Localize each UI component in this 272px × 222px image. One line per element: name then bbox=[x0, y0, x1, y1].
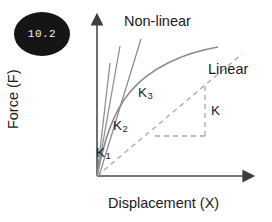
k2-label-subscript: 2 bbox=[122, 123, 128, 134]
k2-label-base: K bbox=[113, 118, 122, 133]
k1-label: K1 bbox=[96, 146, 111, 161]
nonlinear-curve bbox=[97, 47, 218, 176]
slope-triangle-label: K bbox=[211, 104, 220, 118]
x-axis-label: Displacement (X) bbox=[108, 196, 219, 211]
k3-label-base: K bbox=[138, 85, 147, 100]
figure-number-text: 10.2 bbox=[28, 29, 56, 40]
k1-label-subscript: 1 bbox=[105, 150, 111, 161]
figure-canvas: 10.2 Non-linear Linear Force (F) Displac… bbox=[0, 0, 272, 222]
k3-label-subscript: 3 bbox=[147, 90, 153, 101]
linear-label: Linear bbox=[208, 62, 248, 77]
y-axis-label: Force (F) bbox=[6, 69, 21, 129]
nonlinear-label: Non-linear bbox=[124, 14, 191, 29]
k3-label: K3 bbox=[138, 86, 153, 101]
figure-number-badge: 10.2 bbox=[14, 12, 70, 56]
k1-label-base: K bbox=[96, 145, 105, 160]
k2-label: K2 bbox=[113, 119, 128, 134]
